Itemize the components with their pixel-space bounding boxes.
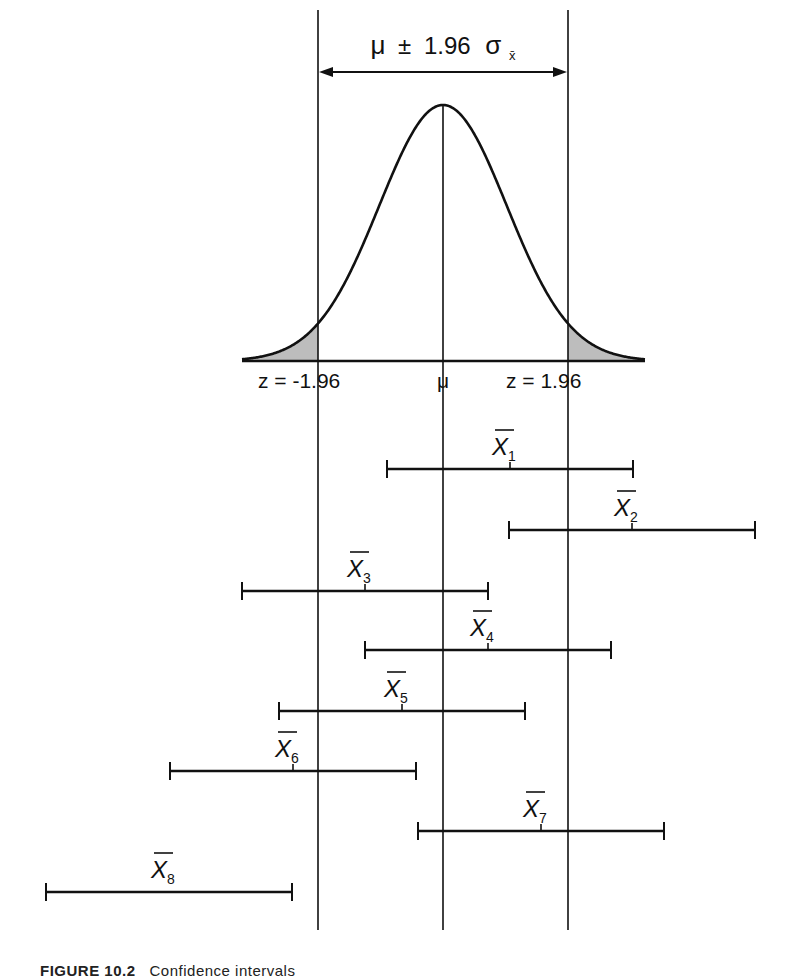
left-tail-region bbox=[242, 324, 318, 362]
sample-mean-label: X4 bbox=[469, 614, 494, 645]
interval-7: X7 bbox=[418, 792, 664, 840]
sample-mean-label: X3 bbox=[346, 555, 371, 586]
right-z-label: z = 1.96 bbox=[506, 369, 581, 392]
sample-mean-label: X1 bbox=[491, 433, 516, 464]
range-label: μ ± 1.96 σ x̄ bbox=[370, 30, 516, 63]
sample-mean-label: X5 bbox=[383, 675, 408, 706]
figure-caption-text: Confidence intervals bbox=[150, 962, 296, 979]
figure-caption: FIGURE 10.2Confidence intervals bbox=[40, 962, 295, 979]
sample-mean-label: X8 bbox=[150, 856, 175, 887]
interval-5: X5 bbox=[279, 672, 525, 720]
interval-2: X2 bbox=[509, 491, 755, 539]
mu-axis-label: μ bbox=[437, 369, 449, 392]
sample-mean-label: X7 bbox=[522, 795, 547, 826]
arrow-left-head-icon bbox=[319, 67, 333, 77]
interval-6: X6 bbox=[170, 732, 416, 780]
interval-8: X8 bbox=[46, 853, 292, 901]
interval-3: X3 bbox=[242, 552, 488, 600]
interval-4: X4 bbox=[365, 611, 611, 659]
sample-mean-label: X2 bbox=[613, 494, 638, 525]
confidence-intervals: X1X2X3X4X5X6X7X8 bbox=[46, 430, 755, 901]
interval-1: X1 bbox=[387, 430, 633, 478]
arrow-right-head-icon bbox=[553, 67, 567, 77]
range-arrow bbox=[319, 67, 567, 77]
left-z-label: z = -1.96 bbox=[258, 369, 340, 392]
right-tail-region bbox=[568, 324, 645, 362]
figure-number: FIGURE 10.2 bbox=[40, 962, 136, 979]
sample-mean-label: X6 bbox=[274, 735, 299, 766]
